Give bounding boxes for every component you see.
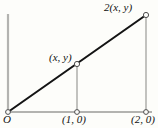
marker-scaled-point: [143, 12, 148, 17]
label-unit-point: (1, 0): [62, 114, 86, 125]
label-scaled-point: 2(x, y): [104, 2, 132, 13]
marker-point: [74, 61, 79, 66]
math-figure: 2(x, y) (x, y) O (1, 0) (2, 0): [0, 0, 158, 128]
label-two-point: (2, 0): [131, 114, 155, 125]
label-origin: O: [3, 114, 11, 125]
figure-canvas: [0, 0, 158, 128]
label-point: (x, y): [49, 52, 72, 63]
